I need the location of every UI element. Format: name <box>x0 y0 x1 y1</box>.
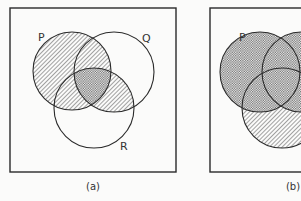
label-q: Q <box>142 32 151 45</box>
caption-a: (a) <box>86 181 100 192</box>
venn-diagram-b: P (b) <box>210 8 301 192</box>
venn-diagrams-figure: P Q R (a) P (b) <box>0 0 301 201</box>
label-p: P <box>38 31 45 44</box>
venn-diagram-a: P Q R (a) <box>10 8 176 192</box>
label-r: R <box>120 140 128 153</box>
caption-b: (b) <box>286 181 300 192</box>
label-p: P <box>239 31 246 44</box>
